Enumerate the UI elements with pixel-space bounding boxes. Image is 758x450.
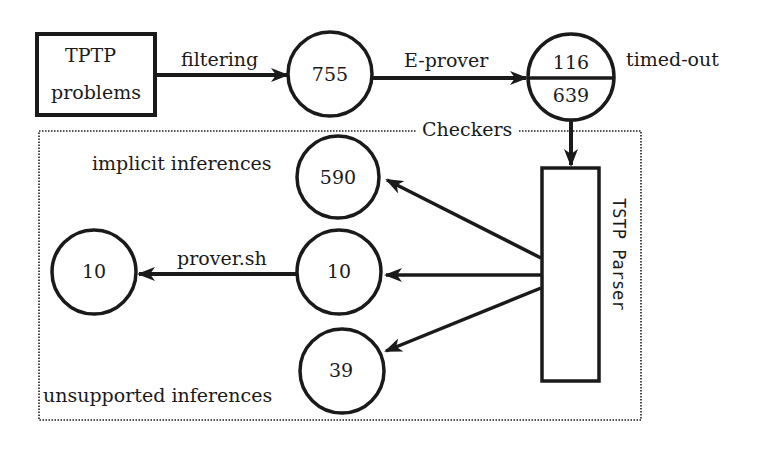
unsupported-inferences-label: unsupported inferences [43, 386, 272, 405]
checkers-group-label: Checkers [416, 120, 518, 139]
split-top-value: 116 [541, 53, 601, 72]
parser-to-implicit-arrow [387, 180, 541, 258]
parser-to-unsupported-arrow [386, 288, 541, 351]
implicit-inferences-label: implicit inferences [92, 154, 272, 173]
filtering-label: filtering [181, 50, 258, 69]
tptp-label-line2: problems [51, 83, 141, 102]
proversh-label: prover.sh [177, 249, 267, 268]
tstp-parser-label: TSTP Parser [610, 198, 627, 311]
tstp-parser-box[interactable] [542, 168, 599, 381]
split-bottom-value: 639 [541, 86, 601, 105]
middle-value: 10 [309, 262, 369, 281]
tptp-label-line1: TPTP [65, 46, 116, 65]
prover-result-value: 10 [64, 262, 124, 281]
timed-out-label: timed-out [626, 50, 719, 69]
filtered-value: 755 [300, 65, 360, 84]
implicit-value: 590 [308, 168, 368, 187]
eprover-label: E-prover [404, 51, 488, 70]
unsupported-value: 39 [311, 361, 371, 380]
